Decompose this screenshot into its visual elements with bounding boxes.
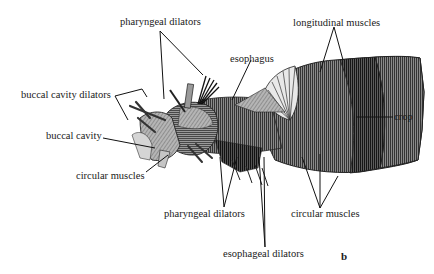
label-buccal-cavity: buccal cavity [46, 131, 102, 142]
panel-letter: b [341, 251, 347, 262]
label-buccal-cavity-dilators: buccal cavity dilators [21, 90, 111, 101]
label-circular-muscles-right: circular muscles [291, 209, 360, 220]
label-esophagus: esophagus [230, 54, 274, 65]
anatomical-figure: pharyngeal dilators longitudinal muscles… [0, 0, 434, 274]
label-esophageal-dilators: esophageal dilators [223, 249, 304, 260]
label-crop: crop [394, 112, 413, 123]
label-pharyngeal-dilators-top: pharyngeal dilators [120, 17, 201, 28]
label-longitudinal-muscles: longitudinal muscles [293, 18, 380, 29]
label-pharyngeal-dilators-bottom: pharyngeal dilators [164, 209, 245, 220]
label-circular-muscles-left: circular muscles [76, 171, 145, 182]
